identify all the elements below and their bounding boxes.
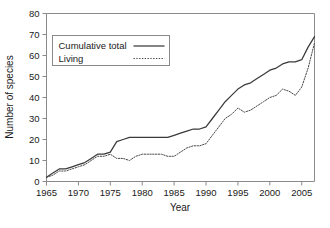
x-tick-label: 1975: [100, 187, 121, 198]
y-tick-label: 60: [29, 50, 40, 61]
x-axis-tick-labels: 196519701975198019851990199520002005: [36, 187, 312, 198]
x-axis-title: Year: [170, 202, 191, 213]
y-tick-label: 40: [29, 92, 40, 103]
chart-container: 01020304050607080 1965197019751980198519…: [0, 0, 330, 228]
y-tick-label: 30: [29, 113, 40, 124]
y-tick-label: 80: [29, 8, 40, 19]
legend-label-living: Living: [59, 53, 84, 64]
y-tick-label: 50: [29, 71, 40, 82]
y-tick-label: 10: [29, 155, 40, 166]
x-tick-label: 1965: [36, 187, 57, 198]
x-tick-label: 1985: [164, 187, 185, 198]
y-axis-tick-labels: 01020304050607080: [29, 8, 40, 187]
species-line-chart: 01020304050607080 1965197019751980198519…: [0, 0, 330, 228]
chart-legend: Cumulative totalLiving: [53, 36, 170, 66]
x-tick-label: 1995: [227, 187, 248, 198]
y-tick-label: 0: [34, 176, 39, 187]
x-tick-label: 1990: [195, 187, 216, 198]
legend-label-cumulative-total: Cumulative total: [59, 40, 127, 51]
y-tick-label: 70: [29, 29, 40, 40]
y-tick-label: 20: [29, 134, 40, 145]
x-tick-label: 2005: [291, 187, 312, 198]
x-tick-label: 2000: [259, 187, 280, 198]
x-tick-label: 1980: [132, 187, 153, 198]
x-tick-label: 1970: [68, 187, 89, 198]
y-axis-title: Number of species: [4, 55, 15, 138]
